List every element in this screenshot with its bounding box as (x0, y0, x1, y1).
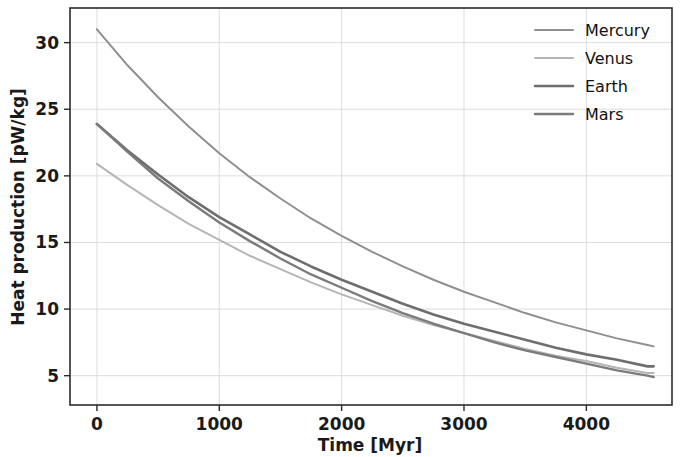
x-tick-label: 4000 (563, 414, 610, 434)
legend-label-earth: Earth (585, 77, 628, 96)
y-tick-label: 30 (35, 33, 59, 53)
x-tick-label: 0 (91, 414, 103, 434)
x-tick-label: 3000 (440, 414, 487, 434)
figure-canvas: 01000200030004000 51015202530 Time [Myr]… (0, 0, 680, 457)
x-tick-label: 1000 (196, 414, 243, 434)
y-axis-label: Heat production [pW/kg] (8, 88, 28, 326)
y-tick-label: 15 (35, 232, 59, 252)
x-axis-label: Time [Myr] (318, 435, 423, 455)
y-tick-label: 20 (35, 166, 59, 186)
figure-background (0, 0, 680, 457)
y-tick-label: 10 (35, 299, 59, 319)
legend-label-mercury: Mercury (585, 21, 650, 40)
legend-label-mars: Mars (585, 105, 624, 124)
y-tick-label: 5 (47, 366, 59, 386)
legend-label-venus: Venus (585, 49, 633, 68)
heat-production-chart: 01000200030004000 51015202530 Time [Myr]… (0, 0, 680, 457)
x-tick-label: 2000 (318, 414, 365, 434)
y-tick-label: 25 (35, 99, 59, 119)
